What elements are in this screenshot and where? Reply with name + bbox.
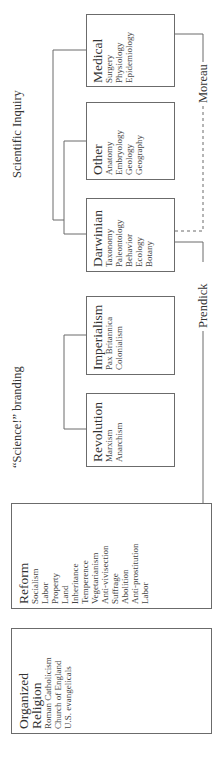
other-title: Other [91, 130, 104, 175]
other-darwinian-connector [64, 141, 86, 234]
reform-title: Reform [17, 544, 30, 605]
medical-item: Epidemiology [124, 32, 134, 83]
reform-item: Inheritance [70, 544, 80, 605]
darwinian-item: Behavior [124, 210, 134, 267]
reform-item: Anti-vivisection [100, 544, 110, 605]
imperialism-item: Pax Britannica [104, 305, 114, 370]
medical-item: Surgery [104, 32, 114, 83]
darwinian-box: Darwinian Taxonomy Paleontology Behavior… [86, 198, 175, 272]
organized-religion-title-line2: Religion [30, 657, 43, 729]
reform-item: Land [60, 544, 70, 605]
moreau-label: Moreau [196, 62, 211, 105]
revolution-box: Revolution Marxism Anarchism [86, 393, 175, 467]
reform-item: Temperence [80, 544, 90, 605]
darwinian-item: Taxonomy [104, 210, 114, 267]
reform-item: Labor [140, 544, 150, 605]
revolution-item: Anarchism [114, 402, 124, 462]
imperialism-title: Imperialism [91, 305, 104, 370]
ideology-tree-diagram: Scientific Inquiry “Science!” branding M… [0, 0, 216, 770]
medical-connector [53, 50, 86, 220]
other-item: Geology [124, 130, 134, 175]
reform-item: Suffrage [110, 544, 120, 605]
darwinian-title: Darwinian [91, 210, 104, 267]
organized-religion-item: Roman Catholicism [43, 657, 53, 729]
reform-item: Vegetarianism [90, 544, 100, 605]
organized-religion-box: Organized Religion Roman Catholicism Chu… [11, 628, 212, 734]
organized-religion-item: U.S. evangelicals [63, 657, 73, 729]
moreau-dashed-line [175, 106, 203, 231]
other-box: Other Anatomy Embryology Geology Geograp… [86, 102, 175, 180]
scientific-inquiry-label: Scientific Inquiry [10, 90, 25, 178]
reform-item: Abolition [120, 544, 130, 605]
darwinian-item: Paleontology [114, 210, 124, 267]
prendick-line-top [175, 242, 203, 262]
other-item: Geography [134, 130, 144, 175]
darwinian-item: Botany [144, 210, 154, 267]
other-item: Anatomy [104, 130, 114, 175]
reform-box: Reform Socialism Labor Property Land Inh… [11, 503, 212, 609]
reform-item: Property [50, 544, 60, 605]
revolution-item: Marxism [104, 402, 114, 462]
other-item: Embryology [114, 130, 124, 175]
imperialism-revolution-connector [64, 335, 86, 429]
organized-religion-item: Church of England [53, 657, 63, 729]
imperialism-box: Imperialism Pax Britannica Colonialism [86, 296, 175, 375]
medical-box: Medical Surgery Physiology Epidemiology [86, 14, 175, 87]
reform-item: Labor [40, 544, 50, 605]
prendick-label: Prendick [196, 282, 211, 330]
reform-item: Socialism [30, 544, 40, 605]
medical-title: Medical [91, 32, 104, 83]
reform-item: Anti-prostitution [130, 544, 140, 605]
imperialism-item: Colonialism [114, 305, 124, 370]
darwinian-item: Ecology [134, 210, 144, 267]
science-branding-label: “Science!” branding [10, 366, 25, 468]
revolution-title: Revolution [91, 402, 104, 462]
medical-item: Physiology [114, 32, 124, 83]
